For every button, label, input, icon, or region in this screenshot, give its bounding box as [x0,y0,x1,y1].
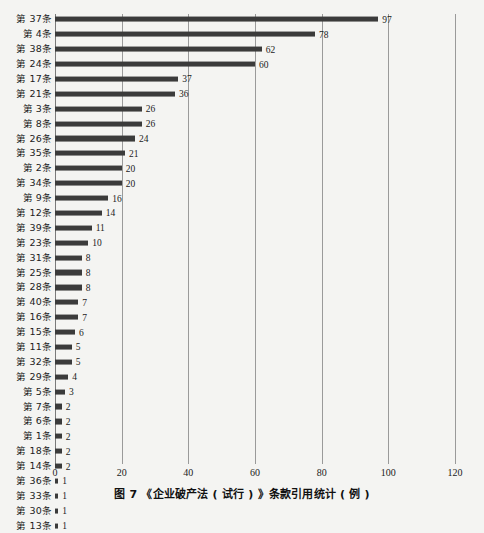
bar-row: 第 39条11 [0,220,484,235]
bar-category-label: 第 29条 [0,372,52,382]
bar-container: 7 [55,295,87,310]
bar-value-label: 6 [79,327,84,337]
bar-value-label: 78 [319,29,329,39]
bar-container: 5 [55,340,80,355]
bar [55,270,82,275]
bar-value-label: 37 [182,74,192,84]
bar-container: 8 [55,280,90,295]
bar-value-label: 60 [259,59,269,69]
bar-category-label: 第 7条 [0,402,52,412]
bar-container: 20 [55,161,135,176]
bar-category-label: 第 11条 [0,342,52,352]
bar-row: 第 17条37 [0,72,484,87]
bar-row: 第 4条78 [0,27,484,42]
bar-category-label: 第 23条 [0,238,52,248]
bar-value-label: 5 [76,342,81,352]
bar-row: 第 9条16 [0,191,484,206]
bar-row: 第 28条8 [0,280,484,295]
x-axis-tick: 60 [250,467,260,479]
x-axis-tick: 40 [183,467,193,479]
bar-row: 第 8条26 [0,116,484,131]
bar-category-label: 第 1条 [0,431,52,441]
bar-row: 第 11条5 [0,340,484,355]
bar [55,225,92,230]
bar-category-label: 第 26条 [0,134,52,144]
bar [55,91,175,96]
bar-category-label: 第 6条 [0,416,52,426]
bar [55,359,72,364]
bar [55,47,262,52]
bar [55,17,378,22]
bar-category-label: 第 12条 [0,208,52,218]
bar-value-label: 14 [106,208,116,218]
bar-value-label: 16 [112,193,122,203]
bar-value-label: 20 [126,163,136,173]
bar-category-label: 第 25条 [0,268,52,278]
bar-value-label: 26 [146,119,156,129]
bar-row: 第 38条62 [0,42,484,57]
bar-category-label: 第 4条 [0,29,52,39]
bar-category-label: 第 3条 [0,104,52,114]
bar-container: 62 [55,42,275,57]
bar [55,240,88,245]
bar-row: 第 2条20 [0,161,484,176]
bar-container: 2 [55,429,70,444]
bar-category-label: 第 40条 [0,297,52,307]
bar [55,523,58,528]
bar-container: 2 [55,399,70,414]
bar-row: 第 18条2 [0,444,484,459]
bar [55,419,62,424]
bar-value-label: 24 [139,134,149,144]
bar-value-label: 8 [86,268,91,278]
bar [55,181,122,186]
bar-value-label: 4 [72,372,77,382]
bar-row: 第 12条14 [0,206,484,221]
bar-value-label: 97 [382,14,392,24]
bar-container: 20 [55,176,135,191]
bar [55,344,72,349]
x-axis-tick: 20 [117,467,127,479]
bar-category-label: 第 28条 [0,282,52,292]
bar-row: 第 7条2 [0,399,484,414]
bar [55,76,178,81]
bar-container: 97 [55,12,392,27]
bar [55,255,82,260]
bar-value-label: 2 [66,446,71,456]
bar-container: 36 [55,86,189,101]
bar-value-label: 10 [92,238,102,248]
bar-value-label: 7 [82,297,87,307]
bar-value-label: 2 [66,402,71,412]
bar-category-label: 第 30条 [0,506,52,516]
bar-container: 26 [55,116,155,131]
bar-row: 第 16条7 [0,310,484,325]
bar [55,121,142,126]
bar-container: 1 [55,503,67,518]
bar-value-label: 2 [66,431,71,441]
bar-container: 2 [55,444,70,459]
bar-row: 第 23条10 [0,235,484,250]
x-axis-tick: 120 [448,467,463,479]
bar-chart: 第 37条97第 4条78第 38条62第 24条60第 17条37第 21条3… [0,12,484,482]
bar [55,32,315,37]
bar [55,136,135,141]
bar-row: 第 29条4 [0,369,484,384]
bar-value-label: 2 [66,416,71,426]
bar-row: 第 37条97 [0,12,484,27]
bar-container: 6 [55,325,84,340]
bar-row: 第 3条26 [0,101,484,116]
bar-container: 2 [55,414,70,429]
bar [55,285,82,290]
bar-row: 第 1条2 [0,429,484,444]
bar-value-label: 3 [69,387,74,397]
bar-value-label: 36 [179,89,189,99]
bar-value-label: 1 [62,521,67,531]
bar-category-label: 第 2条 [0,163,52,173]
bar-row: 第 5条3 [0,384,484,399]
bar-value-label: 20 [126,178,136,188]
bar-category-label: 第 5条 [0,387,52,397]
bar [55,210,102,215]
bar-category-label: 第 37条 [0,14,52,24]
bar-container: 21 [55,146,139,161]
bar-row: 第 30条1 [0,503,484,518]
